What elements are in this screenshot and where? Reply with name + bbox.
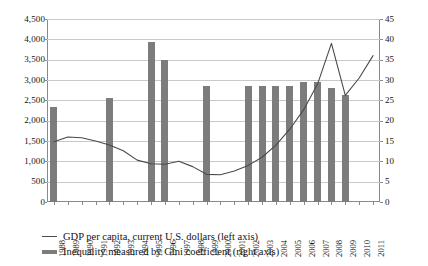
left-axis-tickmark <box>44 19 47 20</box>
left-axis-tick: 1,000 <box>24 157 45 166</box>
x-axis-tickmark <box>276 202 277 205</box>
left-axis-tickmark <box>44 202 47 203</box>
line-series <box>47 19 380 202</box>
x-axis-tickmark <box>179 202 180 205</box>
plot-area <box>47 19 380 202</box>
right-axis-tickmark <box>380 60 383 61</box>
right-axis-tick: 35 <box>385 55 394 64</box>
x-axis-tickmark <box>193 202 194 205</box>
x-axis-tickmark <box>165 202 166 205</box>
x-axis-tickmark <box>82 202 83 205</box>
right-axis-tickmark <box>380 161 383 162</box>
x-axis-tickmark <box>123 202 124 205</box>
chart-legend: GDP per capita, current U.S. dollars (le… <box>42 229 382 259</box>
x-axis-tickmark <box>262 202 263 205</box>
left-axis-tickmark <box>44 80 47 81</box>
legend-item-gini: Inequality measured by Gini coefficient … <box>42 244 382 259</box>
line-swatch-icon <box>42 236 57 237</box>
right-axis-tick: 25 <box>385 96 394 105</box>
legend-item-gdp: GDP per capita, current U.S. dollars (le… <box>42 229 382 244</box>
right-axis-tick: 45 <box>385 15 394 24</box>
x-axis-tickmark <box>304 202 305 205</box>
left-axis-tick: 4,000 <box>24 35 45 44</box>
legend-label-gini: Inequality measured by Gini coefficient … <box>63 246 279 257</box>
x-axis-tickmark <box>68 202 69 205</box>
right-axis-tickmark <box>380 121 383 122</box>
right-axis-tickmark <box>380 80 383 81</box>
legend-label-gdp: GDP per capita, current U.S. dollars (le… <box>63 231 258 242</box>
left-axis-tickmark <box>44 39 47 40</box>
x-axis-tickmark <box>331 202 332 205</box>
left-axis-tickmark <box>44 161 47 162</box>
left-axis-tick: 4,500 <box>24 15 45 24</box>
x-axis-tickmark <box>54 202 55 205</box>
left-axis-tick: 2,500 <box>24 96 45 105</box>
right-axis-tick: 40 <box>385 35 394 44</box>
left-axis-tickmark <box>44 141 47 142</box>
x-axis-tickmark <box>318 202 319 205</box>
left-axis-tickmark <box>44 182 47 183</box>
right-axis-tickmark <box>380 202 383 203</box>
x-axis-tickmark <box>109 202 110 205</box>
right-axis-tickmark <box>380 39 383 40</box>
right-axis-tick: 5 <box>385 177 390 186</box>
right-axis-tick: 30 <box>385 76 394 85</box>
right-axis-tickmark <box>380 141 383 142</box>
left-axis-tickmark <box>44 60 47 61</box>
x-axis-tickmark <box>290 202 291 205</box>
left-axis-tick: 3,000 <box>24 76 45 85</box>
right-axis-tick: 0 <box>385 198 390 207</box>
x-axis-tickmark <box>248 202 249 205</box>
bar-swatch-icon <box>42 250 57 254</box>
right-axis-tickmark <box>380 182 383 183</box>
left-axis-tick: 2,000 <box>24 116 45 125</box>
x-axis-tickmark <box>234 202 235 205</box>
chart-container: 05001,0001,5002,0002,5003,0003,5004,0004… <box>0 0 428 266</box>
left-axis-tickmark <box>44 121 47 122</box>
right-axis-tickmark <box>380 19 383 20</box>
x-axis-tickmark <box>220 202 221 205</box>
x-axis-tickmark <box>137 202 138 205</box>
gdp-line-path <box>47 19 380 202</box>
x-axis-tickmark <box>359 202 360 205</box>
x-axis-tickmark <box>345 202 346 205</box>
right-axis-tick: 10 <box>385 157 394 166</box>
x-axis-tickmark <box>373 202 374 205</box>
left-axis-tick: 3,500 <box>24 55 45 64</box>
left-axis-tick: 500 <box>31 177 45 186</box>
left-axis-tick: 1,500 <box>24 137 45 146</box>
right-axis-tick: 15 <box>385 137 394 146</box>
x-axis-tickmark <box>151 202 152 205</box>
right-axis-tickmark <box>380 100 383 101</box>
right-axis-tick: 20 <box>385 116 394 125</box>
left-axis-tickmark <box>44 100 47 101</box>
x-axis-tickmark <box>207 202 208 205</box>
x-axis-tickmark <box>96 202 97 205</box>
